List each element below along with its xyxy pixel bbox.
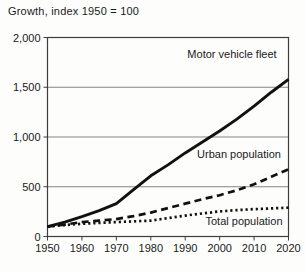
x-tick-label: 2000 xyxy=(207,242,231,254)
x-tick-label: 1960 xyxy=(70,242,94,254)
urban-population-label: Urban population xyxy=(197,148,281,160)
y-tick-label: 2,000 xyxy=(13,32,41,44)
x-tick-label: 2010 xyxy=(242,242,266,254)
x-tick-label: 2020 xyxy=(276,242,300,254)
x-tick-label: 1970 xyxy=(104,242,128,254)
total-population-label: Total population xyxy=(205,215,282,227)
x-tick-label: 1980 xyxy=(139,242,163,254)
growth-index-figure: Growth, index 1950 = 100 05001,0001,5002… xyxy=(0,0,305,272)
growth-line-chart: 05001,0001,5002,000195019601970198019902… xyxy=(0,0,305,272)
y-tick-label: 1,500 xyxy=(13,81,41,93)
y-tick-label: 500 xyxy=(22,181,40,193)
y-tick-label: 1,000 xyxy=(13,131,41,143)
motor-vehicle-fleet-label: Motor vehicle fleet xyxy=(187,48,276,60)
x-tick-label: 1950 xyxy=(35,242,59,254)
x-tick-label: 1990 xyxy=(173,242,197,254)
y-tick-label: 0 xyxy=(34,231,40,243)
